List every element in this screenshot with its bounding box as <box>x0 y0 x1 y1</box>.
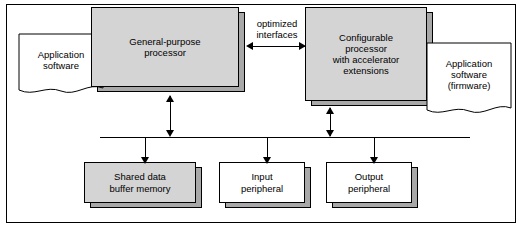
optimized-interface-line <box>248 46 305 47</box>
arrow-gp-up <box>166 95 174 102</box>
arrow-interface-right <box>299 42 306 50</box>
input-peripheral-label: Input peripheral <box>241 171 283 193</box>
arrow-cp-up <box>326 107 334 114</box>
block-input-peripheral: Input peripheral <box>219 162 305 203</box>
configurable-processor-label: Configurable processor with accelerator … <box>333 32 400 77</box>
system-bus-line <box>100 137 470 138</box>
arrow-output-peripheral-down <box>370 157 378 164</box>
application-software-right-label: Application software (firmware) <box>426 58 512 92</box>
block-configurable-processor: Configurable processor with accelerator … <box>305 7 427 101</box>
arrow-shared-buffer-down <box>141 157 149 164</box>
block-shared-data-buffer-memory: Shared data buffer memory <box>84 162 196 203</box>
block-application-software-right: Application software (firmware) <box>426 42 512 118</box>
general-purpose-processor-label: General-purpose processor <box>129 36 200 58</box>
output-peripheral-label: Output peripheral <box>348 171 390 193</box>
arrow-interface-left <box>246 42 253 50</box>
shared-data-buffer-memory-label: Shared data buffer memory <box>109 171 170 193</box>
optimized-interfaces-caption: optimized interfaces <box>236 18 318 41</box>
block-output-peripheral: Output peripheral <box>326 162 412 203</box>
arrow-gp-down <box>166 130 174 137</box>
diagram-canvas: Application software Application softwar… <box>0 0 524 230</box>
block-general-purpose-processor: General-purpose processor <box>91 7 239 87</box>
arrow-input-peripheral-down <box>263 157 271 164</box>
arrow-cp-down <box>326 130 334 137</box>
